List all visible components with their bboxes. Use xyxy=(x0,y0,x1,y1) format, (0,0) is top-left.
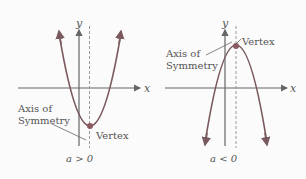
right-vertex-pointer xyxy=(236,39,241,44)
right-axis-label-2: Symmetry xyxy=(166,60,218,71)
left-arrow-up-right xyxy=(119,31,121,44)
right-arrow-down-left xyxy=(205,133,207,145)
right-graph: y x Axis of Symmetry Vertex a < 0 xyxy=(165,17,297,164)
right-axis-pointer xyxy=(206,42,232,55)
left-condition: a > 0 xyxy=(66,153,94,164)
left-axis-label-2: Symmetry xyxy=(18,115,70,126)
left-arrow-up-left xyxy=(59,31,61,44)
left-x-label: x xyxy=(144,82,151,95)
right-arrow-down-right xyxy=(265,133,267,145)
left-axis-label-1: Axis of xyxy=(17,103,53,114)
left-vertex-dot xyxy=(87,123,93,129)
left-axis-pointer xyxy=(52,124,86,140)
right-y-label: y xyxy=(221,17,229,30)
parabola-diagram: y x Axis of Symmetry Vertex a > 0 y x Ax… xyxy=(0,0,306,179)
right-vertex-label: Vertex xyxy=(241,36,275,47)
right-condition: a < 0 xyxy=(210,153,238,164)
left-y-label: y xyxy=(75,17,83,30)
right-x-label: x xyxy=(290,82,297,95)
right-axis-label-1: Axis of xyxy=(165,48,201,59)
left-vertex-label: Vertex xyxy=(95,130,129,141)
diagram-canvas: y x Axis of Symmetry Vertex a > 0 y x Ax… xyxy=(0,0,306,179)
left-graph: y x Axis of Symmetry Vertex a > 0 xyxy=(17,17,151,164)
